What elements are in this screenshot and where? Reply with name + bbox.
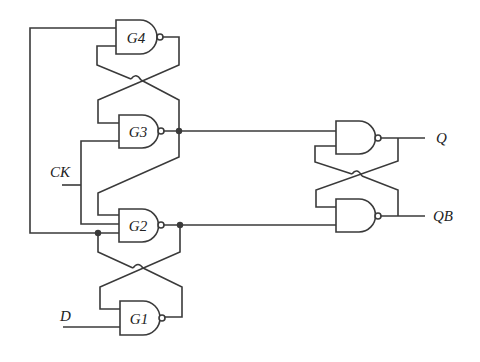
d-label: D <box>59 308 71 324</box>
gate-g2: G2 <box>119 209 164 242</box>
qb-label: QB <box>433 208 453 224</box>
gate-g1: G1 <box>120 301 165 335</box>
feedback-wire <box>30 28 120 233</box>
gate-g3: G3 <box>119 115 164 148</box>
gate-out-top <box>336 121 381 154</box>
ck-label: CK <box>50 164 71 180</box>
gate-g4-label: G4 <box>127 30 146 46</box>
gate-g4: G4 <box>116 20 163 54</box>
circuit-diagram: G4 G3 CK G2 G1 D <box>0 0 480 362</box>
gate-g3-label: G3 <box>129 124 147 140</box>
gate-g2-label: G2 <box>129 218 148 234</box>
gate-g1-label: G1 <box>130 311 148 327</box>
q-label: Q <box>436 130 447 146</box>
gate-out-bottom <box>336 199 381 232</box>
